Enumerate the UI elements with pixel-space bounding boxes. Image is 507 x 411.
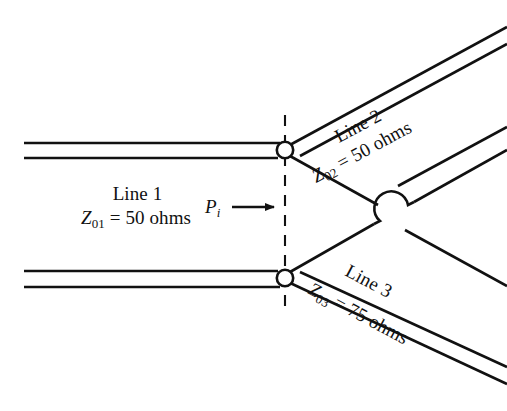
upper-junction-node [277, 142, 293, 158]
line1-impedance-symbol: Z [81, 207, 92, 228]
line1-impedance-value: = 50 ohms [110, 207, 191, 228]
incident-power-subscript: i [217, 205, 221, 220]
incident-power-symbol: P [205, 196, 217, 217]
transmission-line-junction-figure: Line 1 Z01 = 50 ohms Pi Line 2 Z02 = 50 … [0, 0, 507, 411]
diagram-canvas [0, 0, 507, 411]
incident-power-label: Pi [205, 196, 220, 218]
line1-impedance-subscript: 01 [92, 216, 105, 231]
line1-label: Line 1 [60, 183, 215, 205]
lower-junction-node [277, 270, 293, 286]
